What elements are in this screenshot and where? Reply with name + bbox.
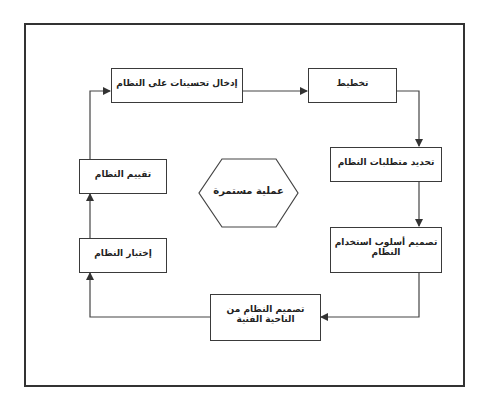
step-label: إدخال تحسينات على النظام — [112, 69, 242, 88]
step-label: تقييم النظام — [80, 160, 166, 179]
arrow-evaluation-to-improvements — [90, 91, 110, 159]
arrow-usage-to-technical — [321, 272, 419, 317]
step-label: تصميم أسلوب استخدام النظام — [331, 228, 441, 257]
step-label: إختبار النظام — [80, 239, 166, 258]
step-label: تصميم النظام من الناحية الفنية — [211, 295, 320, 324]
step-planning: تخطيط — [308, 68, 397, 103]
step-evaluation: تقييم النظام — [79, 159, 167, 194]
step-label: تحديد متطلبات النظام — [331, 148, 441, 167]
step-requirements: تحديد متطلبات النظام — [330, 147, 442, 182]
step-label: تخطيط — [309, 69, 396, 88]
step-improvements: إدخال تحسينات على النظام — [111, 68, 243, 103]
arrow-technical-to-testing — [90, 273, 210, 317]
arrow-planning-to-requirements — [397, 91, 419, 146]
step-technical-design: تصميم النظام من الناحية الفنية — [210, 294, 321, 341]
connector-lines — [0, 0, 489, 407]
step-testing: إختبار النظام — [79, 238, 167, 273]
step-usage-design: تصميم أسلوب استخدام النظام — [330, 227, 442, 273]
center-hexagon-label: عملية مستمرة — [199, 185, 298, 196]
